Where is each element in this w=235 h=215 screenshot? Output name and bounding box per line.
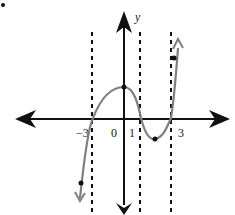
x-tick-label-0: 0: [111, 126, 117, 140]
x-axis: [15, 110, 230, 128]
cubic-function-graph: y −3 0 1 3: [0, 0, 235, 215]
bullet-dot: [1, 3, 5, 7]
point-left-bottom: [79, 181, 84, 186]
x-tick-label-3: 3: [178, 126, 184, 140]
point-y-intercept: [122, 85, 127, 90]
y-axis: [116, 11, 132, 215]
curve-up-arrow-icon: [173, 39, 183, 49]
y-axis-label: y: [134, 10, 141, 24]
point-right-top: [172, 56, 177, 61]
cubic-curve: [80, 48, 178, 198]
dashed-guide-lines: [92, 32, 171, 215]
x-tick-label-1: 1: [129, 126, 135, 140]
point-local-min: [153, 137, 158, 142]
